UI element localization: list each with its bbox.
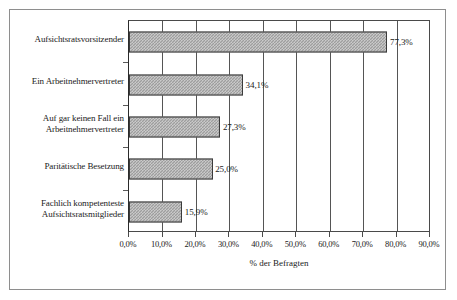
category-label-paritaetische-besetzung: Paritätische Besetzung bbox=[6, 161, 124, 172]
bar-value-label: 25,0% bbox=[215, 164, 238, 174]
bar-value-label: 77,3% bbox=[390, 37, 413, 47]
category-label-aufsichtsratsvorsitzender: Aufsichtsratsvorsitzender bbox=[6, 34, 124, 45]
x-axis-tick bbox=[295, 232, 296, 237]
x-axis-tick bbox=[329, 232, 330, 237]
x-axis-tick bbox=[429, 232, 430, 237]
plot-area: 77,3% 34,1% 27,3% 25,0% 15,9% bbox=[128, 20, 430, 232]
bar-ein-arbeitnehmervertreter[interactable] bbox=[129, 74, 243, 95]
category-label-ein-arbeitnehmervertreter: Ein Arbeitnehmervertreter bbox=[6, 76, 124, 87]
category-label-line: Arbeitnehmervertreter bbox=[6, 124, 124, 135]
bar-row: 25,0% bbox=[129, 148, 429, 190]
x-axis-tick bbox=[128, 232, 129, 237]
category-label-line: Auf gar keinen Fall ein bbox=[6, 113, 124, 124]
category-label-line: Fachlich kompetenteste bbox=[6, 198, 124, 209]
category-label-line: Ein Arbeitnehmervertreter bbox=[6, 76, 124, 87]
bar-auf-gar-keinen-fall-ein-arbeitnehmervertreter[interactable] bbox=[129, 116, 220, 137]
category-label-line: Aufsichtsratsmitglieder bbox=[6, 209, 124, 220]
category-label-line: Aufsichtsratsvorsitzender bbox=[6, 34, 124, 45]
x-axis-tick bbox=[362, 232, 363, 237]
x-axis-tick bbox=[262, 232, 263, 237]
category-label-line: Paritätische Besetzung bbox=[6, 161, 124, 172]
category-axis-labels: Aufsichtsratsvorsitzender Ein Arbeitnehm… bbox=[0, 20, 124, 232]
bar-fachlich-kompetenteste-aufsichtsratsmitglieder[interactable] bbox=[129, 201, 182, 222]
category-label-fachlich-kompetenteste-aufsichtsratsmitglieder: Fachlich kompetenteste Aufsichtsratsmitg… bbox=[6, 198, 124, 220]
bar-value-label: 27,3% bbox=[223, 122, 246, 132]
bar-row: 15,9% bbox=[129, 191, 429, 233]
bar-row: 34,1% bbox=[129, 63, 429, 105]
bar-row: 27,3% bbox=[129, 106, 429, 148]
x-axis-tick bbox=[228, 232, 229, 237]
x-axis-tick bbox=[162, 232, 163, 237]
bar-chart-figure: Aufsichtsratsvorsitzender Ein Arbeitnehm… bbox=[0, 0, 457, 300]
x-axis-title: % der Befragten bbox=[128, 258, 430, 268]
x-axis-tick-label-90: 90,0% bbox=[409, 239, 449, 249]
bar-value-label: 34,1% bbox=[246, 80, 269, 90]
category-label-auf-gar-keinen-fall-ein-arbeitnehmervertreter: Auf gar keinen Fall ein Arbeitnehmervert… bbox=[6, 113, 124, 135]
bar-row: 77,3% bbox=[129, 21, 429, 63]
bar-aufsichtsratsvorsitzender[interactable] bbox=[129, 32, 387, 53]
bar-value-label: 15,9% bbox=[185, 207, 208, 217]
bar-paritaetische-besetzung[interactable] bbox=[129, 159, 213, 180]
x-axis-tick bbox=[396, 232, 397, 237]
x-axis-tick bbox=[195, 232, 196, 237]
